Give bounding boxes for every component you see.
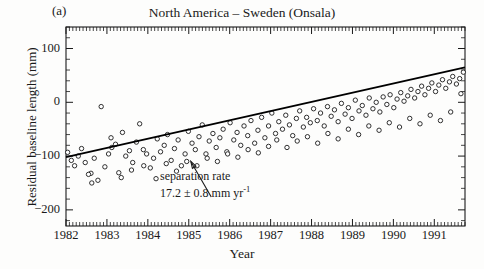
annotation-value: 17.2 ± 0.8 mm yr: [160, 186, 243, 200]
axis-frame: [66, 27, 465, 226]
y-tick-label: 0: [14, 94, 60, 109]
annotation-exponent: -1: [243, 184, 250, 194]
y-axis-label: Residual baseline length (mm): [24, 47, 39, 206]
separation-rate-annotation: separation rate 17.2 ± 0.8 mm yr-1: [160, 169, 250, 200]
chart-title: North America – Sweden (Onsala): [0, 5, 484, 21]
y-tick-label: −100: [14, 148, 60, 163]
y-axis-label-wrapper: Residual baseline length (mm): [22, 27, 40, 227]
x-tick-label: 1991: [406, 228, 462, 243]
y-axis-ticks: [66, 27, 465, 221]
x-axis-label: Year: [0, 246, 484, 262]
y-tick-label: −200: [14, 202, 60, 217]
y-tick-label: 100: [14, 41, 60, 56]
fit-line: [66, 67, 465, 157]
x-axis-ticks: [66, 27, 465, 226]
data-points: [65, 70, 465, 185]
figure-panel: (a) North America – Sweden (Onsala) Resi…: [0, 0, 484, 269]
annotation-line-1: separation rate: [160, 169, 250, 184]
annotation-line-2: 17.2 ± 0.8 mm yr-1: [160, 184, 250, 201]
